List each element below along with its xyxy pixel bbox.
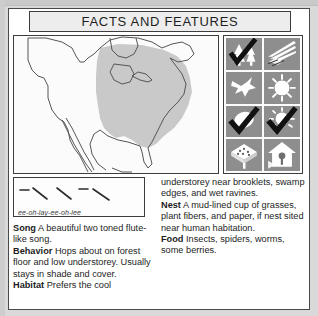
scan-edge-left [0, 0, 5, 316]
right-column: understorey near brooklets, swamp edges,… [157, 177, 305, 307]
ground-nest-icon[interactable] [264, 38, 300, 70]
feature-icon-grid [223, 35, 303, 174]
fact-entry-nest: Nest A mud-lined cup of grasses, plant f… [161, 200, 304, 233]
egg-icon[interactable] [226, 106, 262, 138]
fact-term-behavior: Behavior [13, 246, 52, 256]
song-sonogram-panel: ee-oh-lay-ee-oh-lee [13, 177, 145, 217]
flying-bird-icon[interactable] [226, 72, 262, 104]
fact-term-song: Song [13, 223, 36, 233]
north-america-range-map [14, 36, 218, 173]
birdhouse-icon[interactable] [264, 139, 300, 171]
fact-text-habitat-continuation: understorey near brooklets, swamp edges,… [161, 177, 305, 198]
fact-entry-food: Food Insects, spiders, worms, some berri… [161, 234, 285, 255]
lower-region: ee-oh-lay-ee-oh-lee Song A beautiful two… [13, 177, 305, 307]
fact-entry-song: Song A beautiful two toned flute-like so… [13, 223, 146, 244]
page-root: FACTS AND FEATURES [0, 0, 318, 316]
fact-text-nest: A mud-lined cup of grasses, plant fibers… [161, 200, 304, 233]
upper-region [13, 35, 305, 174]
fact-entry-behavior: Behavior Hops about on forest floor and … [13, 246, 151, 279]
card-title-bar: FACTS AND FEATURES [29, 11, 291, 32]
sun-icon[interactable] [264, 72, 300, 104]
facts-and-features-card: FACTS AND FEATURES [8, 8, 310, 310]
range-map-panel [13, 35, 219, 174]
fact-term-food: Food [161, 234, 183, 244]
fact-term-habitat: Habitat [13, 280, 44, 290]
sonogram-marks [14, 178, 144, 208]
page-title: FACTS AND FEATURES [82, 14, 239, 29]
sun-partial-icon[interactable] [264, 106, 300, 138]
sonogram-transcription: ee-oh-lay-ee-oh-lee [18, 209, 81, 216]
scan-edge-top [0, 0, 318, 6]
fact-term-nest: Nest [161, 200, 181, 210]
facts-left-text: Song A beautiful two toned flute-like so… [13, 223, 153, 291]
forest-habitat-icon[interactable] [226, 38, 262, 70]
fact-text-habitat: Prefers the cool [47, 280, 111, 290]
facts-right-text: understorey near brooklets, swamp edges,… [161, 177, 305, 257]
fact-entry-habitat: Habitat Prefers the cool [13, 280, 111, 290]
platform-feeder-icon[interactable] [226, 139, 262, 171]
left-column: ee-oh-lay-ee-oh-lee Song A beautiful two… [13, 177, 157, 307]
